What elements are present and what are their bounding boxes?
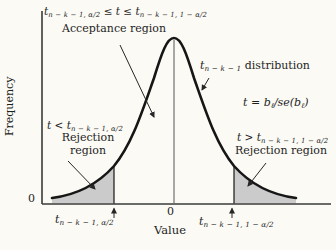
x-axis-zero-tick: 0 xyxy=(167,206,174,219)
y-axis-origin-zero: 0 xyxy=(28,193,35,206)
acceptance-inequality: ≤ t ≤ xyxy=(100,5,135,17)
t-distribution-figure: tn − k − 1, α/2 ≤ t ≤ tn − k − 1, 1 − α/… xyxy=(0,0,336,250)
t-statistic-formula: t = bℓ/se(bℓ) xyxy=(243,97,309,111)
left-critical-tick-label: tn − k − 1, α/2 xyxy=(55,214,114,228)
right-tick-subscript: n − k − 1, 1 − α/2 xyxy=(203,220,274,229)
left-rejection-inequality: t < t xyxy=(47,119,71,131)
acceptance-condition: tn − k − 1, α/2 ≤ t ≤ tn − k − 1, 1 − α/… xyxy=(44,5,207,20)
left-tick-subscript: n − k − 1, α/2 xyxy=(59,218,113,227)
acceptance-region-label: Acceptance region xyxy=(62,23,162,36)
left-rejection-label: Rejection region xyxy=(48,132,128,157)
right-rejection-label: Rejection region xyxy=(235,145,327,158)
acceptance-t1-subscript: n − k − 1, α/2 xyxy=(48,11,100,19)
left-rejection-label-line2: region xyxy=(48,145,128,158)
right-rejection-inequality: t > t xyxy=(237,131,261,143)
distribution-label: tn − k − 1 distribution xyxy=(200,60,310,74)
statistic-mid: /se(b xyxy=(274,96,301,109)
left-rejection-arrow xyxy=(68,161,95,189)
distribution-subscript: n − k − 1 xyxy=(204,64,241,73)
right-rejection-arrow xyxy=(248,163,266,186)
x-axis-label: Value xyxy=(154,224,186,237)
distribution-arrow xyxy=(202,78,209,90)
distribution-word: distribution xyxy=(241,59,310,72)
acceptance-region-arrow xyxy=(120,45,154,117)
statistic-post: ) xyxy=(304,96,308,109)
acceptance-t2-subscript: n − k − 1, 1 − α/2 xyxy=(140,11,207,19)
statistic-pre: t = b xyxy=(243,96,271,109)
right-critical-tick-label: tn − k − 1, 1 − α/2 xyxy=(199,216,274,230)
y-axis-label: Frequency xyxy=(4,66,17,146)
left-rejection-label-line1: Rejection xyxy=(48,132,128,145)
